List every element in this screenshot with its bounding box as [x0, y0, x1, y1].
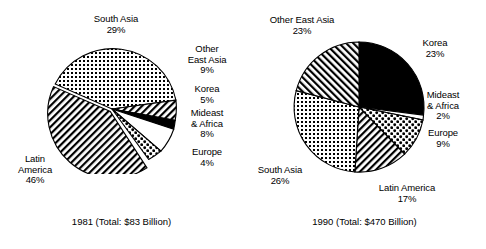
label-1981-europe: Europe 4% — [174, 147, 240, 168]
label-percent: 23% — [395, 49, 475, 60]
label-text: Latin America — [347, 183, 467, 194]
label-percent: 46% — [2, 175, 68, 186]
label-1990-south-asia: South Asia 26% — [235, 165, 325, 186]
label-1981-mideast-africa: Mideast & Africa 8% — [174, 108, 240, 140]
label-text: Europe — [174, 147, 240, 158]
caption-1981: 1981 (Total: $83 Billion) — [0, 216, 243, 227]
label-percent: 8% — [174, 129, 240, 140]
label-1990-korea: Korea 23% — [395, 38, 475, 59]
label-text: South Asia — [56, 14, 176, 25]
label-percent: 17% — [347, 194, 467, 205]
label-1990-other-east-asia: Other East Asia 23% — [247, 15, 357, 36]
label-percent: 23% — [247, 26, 357, 37]
label-percent: 5% — [174, 95, 240, 106]
label-text: Other East Asia — [247, 15, 357, 26]
label-percent: 9% — [174, 65, 240, 76]
label-percent: 9% — [403, 139, 483, 150]
label-percent: 26% — [235, 176, 325, 187]
label-1981-latin-america: Latin America 46% — [2, 154, 68, 186]
label-text: Europe — [403, 128, 483, 139]
label-text: Other — [174, 44, 240, 55]
label-1981-south-asia: South Asia 29% — [56, 14, 176, 35]
label-text: Mideast — [174, 108, 240, 119]
label-text: Mideast — [403, 90, 483, 101]
caption-1990: 1990 (Total: $470 Billion) — [243, 216, 486, 227]
two-pie-chart-figure: South Asia 29% Other East Asia 9% Korea … — [0, 0, 486, 249]
label-text: Latin — [2, 154, 68, 165]
label-1981-korea: Korea 5% — [174, 84, 240, 105]
label-text: Korea — [395, 38, 475, 49]
label-percent: 2% — [403, 111, 483, 122]
pie-chart-1990: Other East Asia 23% Korea 23% Mideast & … — [243, 0, 486, 249]
label-percent: 29% — [56, 25, 176, 36]
label-text: Korea — [174, 84, 240, 95]
label-1981-other-east-asia: Other East Asia 9% — [174, 44, 240, 76]
label-1990-europe: Europe 9% — [403, 128, 483, 149]
pie-chart-1981: South Asia 29% Other East Asia 9% Korea … — [0, 0, 243, 249]
label-percent: 4% — [174, 158, 240, 169]
label-text: South Asia — [235, 165, 325, 176]
label-1990-mideast-africa: Mideast & Africa 2% — [403, 90, 483, 122]
label-1990-latin-america: Latin America 17% — [347, 183, 467, 204]
